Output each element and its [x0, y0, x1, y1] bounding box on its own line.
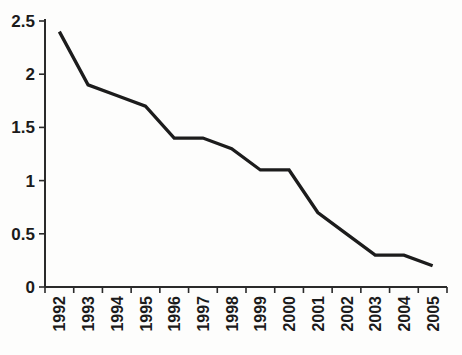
line-chart: 00.511.522.51992199319941995199619971998…	[0, 0, 462, 355]
x-axis-tick-label: 1995	[138, 296, 155, 332]
x-axis-tick-label: 2000	[281, 296, 298, 332]
x-axis-tick-label: 1993	[80, 296, 97, 332]
y-axis-tick-label: 1.5	[11, 118, 35, 137]
y-axis-tick-label: 0	[26, 278, 35, 297]
x-axis-tick-label: 1992	[51, 296, 68, 332]
x-axis-tick-label: 2005	[425, 296, 442, 332]
x-axis-tick-label: 1999	[252, 296, 269, 332]
x-axis-tick-label: 2002	[339, 296, 356, 332]
y-axis-tick-label: 2	[26, 65, 35, 84]
chart-figure: 00.511.522.51992199319941995199619971998…	[0, 0, 462, 355]
x-axis-tick-label: 2003	[367, 296, 384, 332]
x-axis-tick-label: 1994	[109, 296, 126, 332]
y-axis-tick-label: 0.5	[11, 225, 35, 244]
x-axis-tick-label: 1996	[166, 296, 183, 332]
y-axis-tick-label: 1	[26, 172, 35, 191]
x-axis-tick-label: 2004	[396, 296, 413, 332]
x-axis-tick-label: 2001	[310, 296, 327, 332]
y-axis-tick-label: 2.5	[11, 12, 35, 31]
data-line-value	[59, 32, 432, 266]
x-axis-tick-label: 1997	[195, 296, 212, 332]
x-axis-tick-label: 1998	[224, 296, 241, 332]
